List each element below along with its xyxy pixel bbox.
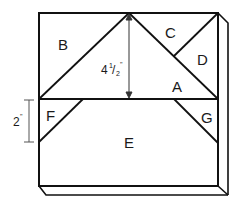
dim-top-den: 2 [116, 70, 120, 77]
quilt-block-diagram: B C D A F G E 4 1 / 2 " 2 " [0, 0, 246, 206]
dim-top-whole: 4 [101, 63, 108, 77]
piece-label-f: F [46, 107, 55, 124]
depth-bottom-edge [39, 186, 228, 195]
piece-label-d: D [197, 51, 208, 68]
piece-label-b: B [58, 36, 68, 53]
piece-label-c: C [165, 24, 176, 41]
piece-label-e: E [124, 134, 134, 151]
piece-label-g: G [201, 109, 213, 126]
piece-label-a: A [172, 78, 182, 95]
dimension-height-side [24, 100, 34, 142]
dimension-label-side: 2 " [13, 113, 23, 129]
dim-side-unit: " [20, 113, 23, 120]
depth-corner-edge [218, 186, 228, 195]
depth-right-edge [218, 13, 228, 195]
dim-side-value: 2 [13, 115, 20, 129]
